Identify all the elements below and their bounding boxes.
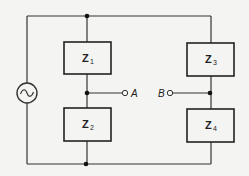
terminal-b[interactable] <box>167 90 172 95</box>
impedance-z3: Z 3 <box>187 43 234 76</box>
junction-dot-top <box>85 14 90 19</box>
impedance-z4-subscript: 4 <box>213 125 217 132</box>
impedance-z3-subscript: 3 <box>213 59 217 66</box>
ac-source-icon <box>17 83 37 103</box>
impedance-z1-letter: Z <box>82 52 89 64</box>
terminal-b-label: B <box>158 88 165 99</box>
impedance-z1: Z 1 <box>64 42 111 74</box>
impedance-z2: Z 2 <box>64 108 111 141</box>
impedance-z1-subscript: 1 <box>90 58 94 65</box>
impedance-z2-subscript: 2 <box>90 124 94 131</box>
impedance-z4: Z 4 <box>187 109 234 142</box>
impedance-z3-letter: Z <box>205 53 212 65</box>
junction-dot-right-mid <box>208 91 213 96</box>
junction-dot-bottom <box>84 162 89 167</box>
impedance-z2-letter: Z <box>82 118 89 130</box>
impedance-z4-letter: Z <box>205 119 212 131</box>
terminal-a-label: A <box>130 88 138 99</box>
bridge-circuit-diagram: Z 1 Z 2 Z 3 Z 4 A B <box>0 0 249 176</box>
terminal-a[interactable] <box>122 90 127 95</box>
junction-dot-left-mid <box>85 91 90 96</box>
